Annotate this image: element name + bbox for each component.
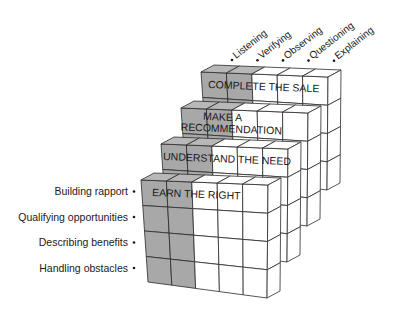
front-cell xyxy=(169,233,195,262)
front-cell xyxy=(145,231,171,259)
bullet-icon xyxy=(133,190,136,193)
front-cell xyxy=(219,264,243,294)
front-cell xyxy=(243,184,268,213)
bullet-icon xyxy=(133,267,136,270)
row-label: Handling obstacles xyxy=(39,262,128,274)
front-cell xyxy=(243,212,268,242)
cube-diagram-canvas: COMPLETE THE SALEMAKE ARECOMMENDATIONUND… xyxy=(0,0,394,313)
bullet-icon xyxy=(256,59,259,62)
row-label: Describing benefits xyxy=(39,236,128,248)
column-labels: ListeningVerifyingObservingQuestioningEx… xyxy=(230,20,375,62)
bullet-icon xyxy=(307,59,310,62)
bullet-icon xyxy=(282,59,285,62)
row-labels: Building rapportQualifying opportunities… xyxy=(18,185,135,274)
front-cell xyxy=(193,209,219,238)
front-cell xyxy=(243,239,268,269)
bullet-icon xyxy=(133,241,136,244)
front-cell xyxy=(218,237,243,267)
row-label: Building rapport xyxy=(54,185,128,197)
front-cell xyxy=(146,257,172,286)
cube-layers: COMPLETE THE SALEMAKE ARECOMMENDATIONUND… xyxy=(141,65,341,298)
bullet-icon xyxy=(231,59,234,62)
front-cell xyxy=(218,210,243,239)
front-cell xyxy=(170,259,195,288)
row-label: Qualifying opportunities xyxy=(18,211,128,223)
bullet-icon xyxy=(133,216,136,219)
layer-4: EARN THE RIGHT xyxy=(141,173,281,298)
front-cell xyxy=(195,262,220,292)
sales-skills-cube-diagram: COMPLETE THE SALEMAKE ARECOMMENDATIONUND… xyxy=(0,0,394,313)
front-cell xyxy=(168,207,194,235)
front-cell xyxy=(243,267,267,298)
front-cell xyxy=(283,112,308,141)
front-cell xyxy=(194,235,219,264)
bullet-icon xyxy=(333,60,336,63)
front-cell xyxy=(143,206,169,234)
